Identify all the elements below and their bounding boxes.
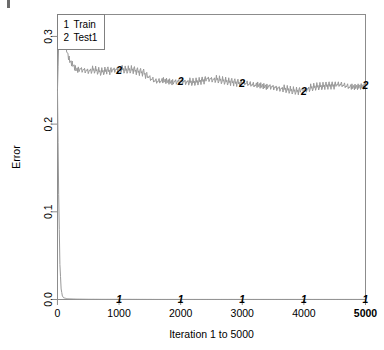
y-tick-label-0.2: 0.2	[42, 117, 54, 132]
series-marker-train-1000: 1	[116, 293, 122, 305]
series-marker-train-2000: 1	[178, 293, 184, 305]
x-axis-title: Iteration 1 to 5000	[169, 328, 254, 340]
x-tick-label-0: 0	[55, 307, 61, 319]
legend-key-train: 1	[64, 19, 70, 30]
x-tick-label-3000: 3000	[231, 307, 255, 319]
series-marker-train-4000: 1	[301, 293, 307, 305]
series-marker-test1-1000: 2	[115, 64, 122, 76]
corner-mark-artifact	[7, 0, 10, 8]
plot-frame	[58, 15, 366, 300]
series-marker-test1-4000: 2	[300, 85, 307, 97]
legend-key-test1: 2	[64, 32, 70, 43]
error-vs-iteration-chart: 0100020003000400050000.00.10.20.3Iterati…	[0, 0, 384, 350]
series-marker-test1-2000: 2	[177, 75, 184, 87]
series-marker-test1-3000: 2	[238, 77, 245, 89]
series-marker-train-3000: 1	[239, 293, 245, 305]
x-tick-label-5000: 5000	[354, 307, 378, 319]
x-tick-label-2000: 2000	[169, 307, 193, 319]
legend-label-test1: Test1	[74, 32, 98, 43]
y-axis-title: Error	[10, 145, 22, 169]
series-line-train	[58, 91, 366, 300]
x-tick-label-1000: 1000	[107, 307, 131, 319]
series-marker-train-5000: 1	[363, 293, 369, 305]
y-tick-label-0.0: 0.0	[42, 292, 54, 307]
y-tick-label-0.1: 0.1	[42, 204, 54, 219]
series-marker-test1-5000: 2	[362, 79, 369, 91]
x-tick-label-4000: 4000	[292, 307, 316, 319]
legend-label-train: Train	[74, 19, 96, 30]
y-tick-label-0.3: 0.3	[42, 29, 54, 44]
chart-figure: 0100020003000400050000.00.10.20.3Iterati…	[0, 0, 384, 350]
